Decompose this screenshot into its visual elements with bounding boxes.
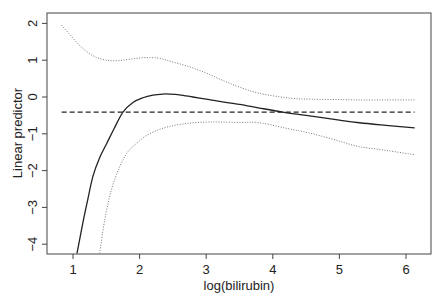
series-fit-line [77,94,415,253]
y-tick-label: −2 [25,163,40,178]
x-tick-label: 4 [269,262,276,277]
series-upper-band-line [62,25,415,100]
x-axis-label: log(bilirubin) [204,278,275,293]
y-tick-label: 0 [25,93,40,100]
x-tick-label: 6 [402,262,409,277]
x-tick-label: 3 [203,262,210,277]
y-tick-label: 1 [25,57,40,64]
y-axis-label: Linear predictor [10,87,25,178]
series-layer [62,25,415,253]
x-axis: 123456 [69,254,409,277]
x-tick-label: 5 [336,262,343,277]
y-axis: −4−3−2−1012 [25,20,47,252]
y-tick-label: −4 [25,237,40,252]
y-tick-label: 2 [25,20,40,27]
series-lower-band-line [100,122,415,253]
y-tick-label: −3 [25,200,40,215]
y-tick-label: −1 [25,126,40,141]
x-tick-label: 2 [136,262,143,277]
plot-frame [47,13,431,254]
x-tick-label: 1 [69,262,76,277]
chart: 123456 −4−3−2−1012 log(bilirubin) Linear… [0,0,444,305]
